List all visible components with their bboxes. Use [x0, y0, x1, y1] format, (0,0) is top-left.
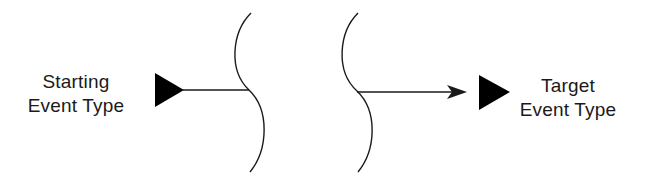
- target-label-line2: Event Type: [512, 98, 624, 122]
- starting-label-line2: Event Type: [20, 94, 132, 118]
- starting-event-type-label: Starting Event Type: [20, 70, 132, 118]
- target-event-triangle-icon: [479, 75, 510, 110]
- starting-event-triangle-icon: [155, 73, 184, 107]
- target-event-type-label: Target Event Type: [512, 74, 624, 122]
- starting-label-line1: Starting: [20, 70, 132, 94]
- target-label-line1: Target: [512, 74, 624, 98]
- left-break-curve: [235, 13, 264, 172]
